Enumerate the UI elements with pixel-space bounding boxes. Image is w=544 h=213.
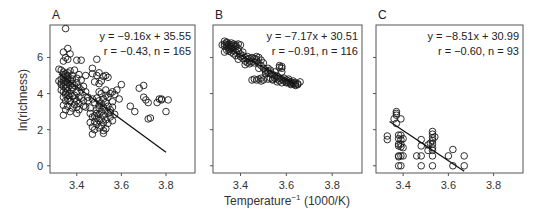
data-point <box>116 96 123 103</box>
data-point <box>132 108 139 115</box>
x-tick-label: 3.6 <box>441 179 456 191</box>
data-point <box>65 56 72 63</box>
data-point <box>82 72 89 79</box>
data-point <box>429 163 436 170</box>
correlation-stats: r = −0.43, n = 165 <box>104 45 191 57</box>
x-tick-label: 3.4 <box>233 179 248 191</box>
data-point <box>445 153 452 160</box>
data-point <box>103 72 110 79</box>
y-tick-label: 2 <box>37 124 43 136</box>
data-point <box>461 153 468 160</box>
data-point <box>91 79 98 86</box>
x-tick-label: 3.8 <box>325 179 340 191</box>
data-point <box>82 104 89 111</box>
x-tick-label: 3.4 <box>395 179 410 191</box>
x-tick-label: 3.6 <box>279 179 294 191</box>
correlation-stats: r = −0.91, n = 116 <box>272 45 358 57</box>
regression-equation: y = −7.17x + 30.51 <box>267 30 358 42</box>
data-point <box>62 25 69 32</box>
regression-equation: y = −8.51x + 30.99 <box>428 30 519 42</box>
data-point <box>418 163 425 170</box>
data-point <box>96 89 103 96</box>
data-point <box>147 115 154 122</box>
x-tick-label: 3.6 <box>114 179 129 191</box>
data-point <box>418 153 425 160</box>
x-tick-label: 3.8 <box>158 179 173 191</box>
y-tick-label: 4 <box>37 88 43 100</box>
x-axis-label-units: (1000/K) <box>301 194 350 208</box>
data-point <box>94 56 101 63</box>
panel-b: B3.43.63.8y = −7.17x + 30.51r = −0.91, n… <box>210 8 362 191</box>
panels: A02463.43.63.8y = −9.16x + 35.55r = −0.4… <box>37 8 523 191</box>
correlation-stats: r = −0.60, n = 93 <box>438 45 519 57</box>
y-tick-label: 0 <box>37 160 43 172</box>
data-point <box>127 103 134 110</box>
scatter-points <box>56 25 172 137</box>
panel-label: A <box>52 8 60 22</box>
figure-canvas: A02463.43.63.8y = −9.16x + 35.55r = −0.4… <box>0 0 544 213</box>
regression-equation: y = −9.16x + 35.55 <box>100 30 191 42</box>
panel-label: C <box>378 8 387 22</box>
panel-a: A02463.43.63.8y = −9.16x + 35.55r = −0.4… <box>37 8 195 191</box>
data-point <box>118 81 125 88</box>
panel-c: C3.43.63.8y = −8.51x + 30.99r = −0.60, n… <box>373 8 523 191</box>
data-point <box>461 163 468 170</box>
data-point <box>165 97 172 104</box>
x-axis-label: Temperature−1 (1000/K) <box>224 193 350 208</box>
y-axis-label: ln(richness) <box>16 69 30 131</box>
data-point <box>450 146 457 153</box>
data-point <box>60 112 67 119</box>
data-point <box>105 74 112 81</box>
data-point <box>78 57 85 64</box>
x-tick-label: 3.8 <box>486 179 501 191</box>
panel-label: B <box>215 8 223 22</box>
scatter-points <box>384 108 468 169</box>
x-axis-label-main: Temperature <box>224 194 292 208</box>
y-tick-label: 6 <box>37 51 43 63</box>
x-tick-label: 3.4 <box>69 179 84 191</box>
data-point <box>163 108 170 115</box>
regression-line <box>59 74 166 153</box>
